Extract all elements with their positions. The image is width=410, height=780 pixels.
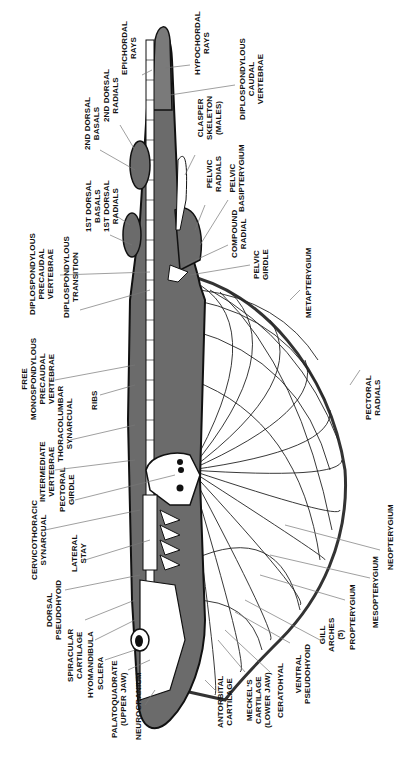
- label-lateral-stay: LATERAL STAY: [70, 535, 88, 572]
- label-neopterygium: NEOPTERYGIUM: [386, 504, 395, 570]
- label-metapterygium: METAPTERYGIUM: [304, 247, 313, 318]
- label-spiracular-cartilage: SPIRACULAR CARTILAGE: [66, 629, 84, 682]
- label-ribs: RIBS: [90, 390, 99, 410]
- label-free-monospondylous-precaudal-vertebrae: FREE MONOSPONDYLOUS PRECAUDAL VERTEBRAE: [20, 338, 56, 420]
- caudal-fin: [152, 27, 172, 110]
- label-ventral-pseudohyoid: VENTRAL PSEUDOHYOID: [294, 644, 312, 704]
- label-epichordal-rays: EPICHORDAL RAYS: [120, 21, 138, 75]
- label-hypochordal-rays: HYPOCHORDAL RAYS: [193, 11, 211, 75]
- cervicothoracic-synarcual: [143, 495, 157, 570]
- label-pelvic-girdle: PELVIC GIRDLE: [252, 249, 270, 280]
- label-diplospondylous-precaudal-vertebrae: DIPLOSPONDYLOUS PRECAUDAL VERTEBRAE: [28, 233, 55, 315]
- label-pelvic-radials: PELVIC RADIALS: [205, 156, 223, 192]
- label-compound-radial: COMPOUND RADIAL: [230, 210, 248, 258]
- label-dorsal-pseudohyoid: DORSAL PSEUDOHYOID: [45, 580, 63, 640]
- label-sclera: SCLERA: [96, 657, 105, 691]
- label-first-dorsal-radials: 1ST DORSAL RADIALS: [102, 180, 120, 232]
- label-diplospondylous-caudal-vertebrae: DIPLOSPONDYLOUS CAUDAL VERTEBRAE: [238, 38, 265, 120]
- label-meckels-cartilage: MECKEL'S CARTILAGE (LOWER JAW): [245, 672, 272, 728]
- label-pectoral-radials: PECTORAL RADIALS: [364, 375, 382, 420]
- label-intermediate-vertebrae: INTERMEDIATE VERTEBRAE: [38, 441, 56, 502]
- first-dorsal-fin: [123, 213, 141, 257]
- label-hyomandibula: HYOMANDIBULA: [86, 631, 95, 698]
- label-second-dorsal-radials: 2ND DORSAL RADIALS: [102, 69, 120, 122]
- label-pelvic-basipterygium: PELVIC BASIPTERYGIUM: [228, 144, 246, 212]
- label-ceratohyal: CERATOHYAL: [276, 663, 285, 718]
- second-dorsal-fin: [130, 141, 150, 189]
- label-thoracolumbar-synarcual: THORACOLUMBAR SYNARCUAL: [56, 386, 74, 462]
- skate-skeleton-diagram: EPICHORDAL RAYS HYPOCHORDAL RAYS 2ND DOR…: [0, 0, 410, 780]
- label-second-dorsal-basals: 2ND DORSAL BASALS: [83, 97, 101, 150]
- label-mesopterygium: MESOPTERYGIUM: [371, 556, 380, 628]
- label-palatoquadrate: PALATOQUADRATE (UPPER JAW): [110, 660, 128, 738]
- label-clasper-skeleton: CLASPER SKELETON (MALES): [196, 96, 223, 140]
- label-propterygium: PROPTERYGIUM: [348, 584, 357, 650]
- label-neurocranium: NEUROCRANIUM: [134, 672, 143, 740]
- label-gill-arches: GILL ARCHES (5): [318, 618, 345, 652]
- label-antorbital-cartilage: ANTORBITAL CARTILAGE: [216, 676, 234, 728]
- label-cervicothoracic-synarcual: CERVICOTHORACIC SYNARCUAL: [30, 500, 48, 580]
- label-diplospondylous-transition: DIPLOSPONDYLOUS TRANSITION: [62, 236, 80, 318]
- label-first-dorsal-basals: 1ST DORSAL BASALS: [84, 180, 102, 232]
- label-pectoral-girdle: PECTORAL GIRDLE: [58, 467, 76, 512]
